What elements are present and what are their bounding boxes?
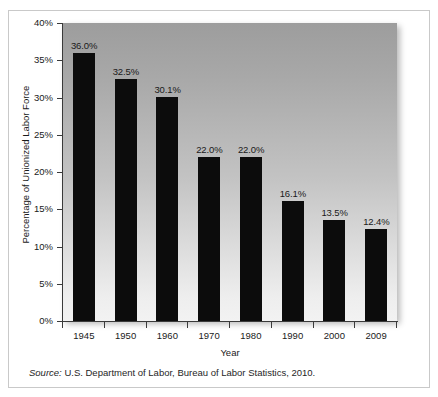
y-axis-tick: 25% (57, 135, 62, 136)
y-axis-tick-label: 40% (34, 17, 53, 28)
source-note: Source: U.S. Department of Labor, Bureau… (29, 367, 315, 378)
bar-value-label: 12.4% (363, 216, 389, 227)
y-axis-tick: 30% (57, 98, 62, 99)
x-axis-tick-label: 1990 (282, 330, 303, 341)
x-axis-tick-label: 1970 (199, 330, 220, 341)
x-axis-tick (271, 322, 272, 328)
source-detail: U.S. Department of Labor, Bureau of Labo… (62, 367, 315, 378)
y-axis-tick-label: 0% (39, 315, 53, 326)
y-axis-tick: 20% (57, 172, 62, 173)
x-axis-tick-label: 1950 (115, 330, 136, 341)
bar-value-label: 22.0% (238, 144, 264, 155)
y-axis-tick-label: 30% (34, 92, 53, 103)
bar-value-label: 22.0% (196, 144, 222, 155)
x-axis-tick (396, 322, 397, 328)
x-axis-tick (187, 322, 188, 328)
y-axis-tick-label: 35% (34, 54, 53, 65)
x-axis-tick-label: 1960 (157, 330, 178, 341)
bar (156, 97, 178, 321)
x-axis-tick (354, 322, 355, 328)
bar (198, 157, 220, 321)
x-axis-tick (313, 322, 314, 328)
y-axis-tick: 5% (57, 284, 62, 285)
y-axis-line (62, 23, 63, 322)
bar-value-label: 16.1% (280, 188, 306, 199)
y-axis-tick-label: 10% (34, 241, 53, 252)
bar (282, 201, 304, 321)
x-axis-tick (146, 322, 147, 328)
y-axis-tick: 35% (57, 60, 62, 61)
x-axis-tick (62, 322, 63, 328)
bar-value-label: 36.0% (71, 40, 97, 51)
x-axis-tick-label: 1980 (240, 330, 261, 341)
bar (240, 157, 262, 321)
bar-value-label: 32.5% (113, 66, 139, 77)
x-axis-tick-label: 2009 (366, 330, 387, 341)
source-label: Source: (29, 367, 62, 378)
figure-frame: 36.0%32.5%30.1%22.0%22.0%16.1%13.5%12.4%… (8, 10, 430, 388)
y-axis-tick-label: 25% (34, 129, 53, 140)
y-axis-tick: 15% (57, 209, 62, 210)
y-axis-tick-label: 20% (34, 166, 53, 177)
x-axis-title: Year (62, 347, 398, 358)
bar (73, 53, 95, 321)
y-axis-title: Percentage of Unionized Labor Force (20, 94, 31, 244)
y-axis-tick-label: 5% (39, 278, 53, 289)
y-axis-tick: 10% (57, 247, 62, 248)
x-axis-tick-label: 2000 (324, 330, 345, 341)
x-axis-tick (229, 322, 230, 328)
x-axis-tick (104, 322, 105, 328)
bar (365, 229, 387, 321)
plot-area: 36.0%32.5%30.1%22.0%22.0%16.1%13.5%12.4% (63, 23, 397, 321)
bar-value-label: 30.1% (154, 84, 180, 95)
x-axis-tick-label: 1945 (73, 330, 94, 341)
bar (115, 79, 137, 321)
bar-value-label: 13.5% (321, 207, 347, 218)
y-axis-tick: 40% (57, 23, 62, 24)
x-axis-line (62, 321, 398, 322)
bar (323, 220, 345, 321)
plot-inner: 36.0%32.5%30.1%22.0%22.0%16.1%13.5%12.4% (63, 23, 397, 321)
y-axis-tick-label: 15% (34, 203, 53, 214)
